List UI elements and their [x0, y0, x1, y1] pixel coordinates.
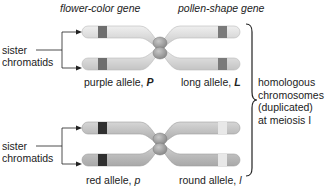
sister-chromatids-label-bottom: sister chromatids: [2, 140, 53, 164]
allele-symbol: L: [234, 76, 240, 88]
purple-allele-label: purple allele, P: [84, 76, 153, 88]
top-upper-arrow-icon: [76, 30, 82, 35]
top-lower-arrow-icon: [76, 66, 82, 71]
allele-text: red allele,: [86, 174, 134, 186]
bottom-upper-arrow-icon: [76, 126, 82, 131]
red-allele-label: red allele, p: [86, 174, 140, 186]
top-upper-pollen-band: [218, 26, 227, 38]
long-allele-label: long allele, L: [181, 76, 241, 88]
bottom-lower-arrow-icon: [76, 162, 82, 167]
bottom-homolog: [82, 122, 240, 166]
top-centromere-lower: [153, 47, 167, 59]
sister-chromatids-label-top: sister chromatids: [2, 44, 53, 68]
bottom-lower-pollen-band: [218, 154, 227, 166]
bottom-lower-flower-band: [98, 154, 107, 166]
allele-symbol: P: [146, 76, 153, 88]
bottom-upper-pollen-band: [218, 122, 227, 134]
top-homolog: [82, 26, 240, 70]
chromatids-word: chromatids: [2, 152, 53, 164]
allele-symbol: l: [239, 174, 241, 186]
top-lower-flower-band: [98, 58, 107, 70]
label-line: homologous: [258, 76, 324, 89]
homologous-chromosomes-label: homologous chromosomes (duplicated) at m…: [258, 76, 324, 126]
allele-text: round allele,: [179, 174, 239, 186]
top-lower-pollen-band: [218, 58, 227, 70]
allele-text: long allele,: [181, 76, 234, 88]
label-line: chromosomes: [258, 89, 324, 102]
bottom-centromere-lower: [153, 143, 167, 155]
sister-word: sister: [2, 140, 53, 152]
allele-text: purple allele,: [84, 76, 146, 88]
allele-symbol: p: [134, 174, 140, 186]
label-line: at meiosis I: [258, 114, 324, 127]
chromatids-word: chromatids: [2, 56, 53, 68]
sister-word: sister: [2, 44, 53, 56]
label-line: (duplicated): [258, 101, 324, 114]
homolog-brace-icon: [246, 24, 257, 176]
round-allele-label: round allele, l: [179, 174, 241, 186]
top-upper-flower-band: [98, 26, 107, 38]
bottom-upper-flower-band: [98, 122, 107, 134]
